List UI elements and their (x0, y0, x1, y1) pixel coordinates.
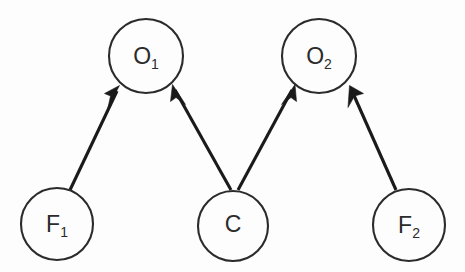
edge-c-to-o1-arrowhead (171, 85, 186, 105)
node-o1-label-subscript: 1 (151, 56, 159, 72)
node-o2[interactable]: O2 (282, 19, 356, 93)
node-o2-label-subscript: 2 (324, 56, 332, 72)
node-c-label: C (225, 211, 242, 237)
edge-c-to-o1 (171, 85, 232, 191)
node-o1[interactable]: O1 (109, 19, 183, 93)
node-f1-label-text: F (46, 211, 60, 237)
node-c-label-text: C (225, 211, 242, 237)
node-f1[interactable]: F1 (21, 188, 93, 260)
node-f1-label-subscript: 1 (60, 224, 68, 240)
diagram-canvas: O1 O2 F1 C F2 (0, 0, 465, 272)
node-c[interactable]: C (198, 191, 268, 261)
edge-f1-to-o1 (70, 86, 120, 191)
edge-f2-to-o2-line (352, 91, 396, 190)
node-f2-label-subscript: 2 (412, 225, 420, 241)
edge-c-to-o2 (238, 85, 297, 191)
edge-f1-to-o1-line (70, 91, 117, 190)
node-o1-label-text: O (133, 43, 151, 69)
node-f2-label-text: F (398, 212, 412, 238)
path-diagram: O1 O2 F1 C F2 (0, 0, 465, 272)
node-o2-label-text: O (306, 43, 324, 69)
edge-c-to-o2-arrowhead (282, 85, 297, 105)
edge-c-to-o2-line (238, 90, 292, 190)
node-f2[interactable]: F2 (373, 189, 445, 261)
edge-c-to-o1-line (175, 90, 231, 190)
edge-f2-to-o2 (348, 86, 396, 191)
